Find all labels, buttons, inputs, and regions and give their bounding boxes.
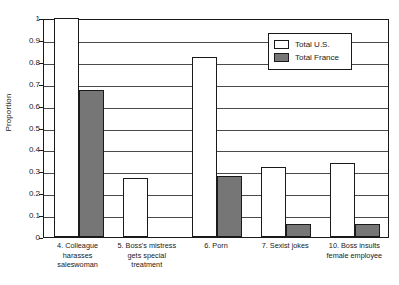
legend-label-total-us: Total U.S. xyxy=(295,40,330,49)
y-tick-mark xyxy=(39,194,43,195)
legend-item-total-france: Total France xyxy=(274,51,346,64)
y-tick-mark xyxy=(39,19,43,20)
legend-swatch-total-us xyxy=(274,40,289,49)
y-tick-mark xyxy=(39,63,43,64)
x-axis-label-line: treatment xyxy=(112,260,181,270)
bar-total-france xyxy=(286,224,311,237)
bar-total-us xyxy=(123,178,148,237)
y-tick-mark xyxy=(39,41,43,42)
y-tick-mark xyxy=(39,85,43,86)
bar-total-france xyxy=(355,224,380,237)
bar-group xyxy=(113,20,182,237)
bar-total-us xyxy=(330,163,355,237)
y-tick-label: 0.8 xyxy=(18,59,40,67)
y-tick-label: 0.5 xyxy=(18,125,40,133)
y-tick-mark xyxy=(39,172,43,173)
x-axis-label-line: 10. Boss insults xyxy=(320,241,389,251)
bar-group xyxy=(44,20,113,237)
x-axis-label: 7. Sexist jokes xyxy=(251,241,320,251)
x-axis-label-line: female employee xyxy=(320,251,389,261)
y-tick-label: 0.1 xyxy=(18,212,40,220)
chart-legend: Total U.S. Total France xyxy=(268,33,352,70)
bar-group xyxy=(182,20,251,237)
x-axis-label-line: harasses xyxy=(43,251,112,261)
bar-total-us xyxy=(261,167,286,237)
y-tick-mark xyxy=(39,150,43,151)
y-tick-label: 0.6 xyxy=(18,103,40,111)
y-tick-label: 0.4 xyxy=(18,146,40,154)
y-axis-title-text: Proportion xyxy=(5,93,14,131)
x-axis-labels: 4. Colleagueharassessaleswoman5. Boss's … xyxy=(43,241,389,283)
y-tick-mark xyxy=(39,129,43,130)
y-tick-label: 0.7 xyxy=(18,81,40,89)
y-tick-label: 0.9 xyxy=(18,37,40,45)
x-axis-label: 6. Porn xyxy=(181,241,250,251)
bar-total-us xyxy=(192,57,217,237)
x-axis-label-line: 4. Colleague xyxy=(43,241,112,251)
legend-swatch-total-france xyxy=(274,53,289,62)
y-tick-label: 0.2 xyxy=(18,190,40,198)
y-tick-mark xyxy=(39,238,43,239)
legend-label-total-france: Total France xyxy=(295,53,339,62)
y-tick-mark xyxy=(39,216,43,217)
x-axis-label-line: 7. Sexist jokes xyxy=(251,241,320,251)
x-axis-label-line: gets special xyxy=(112,251,181,261)
y-tick-mark xyxy=(39,107,43,108)
bar-chart-figure: Proportion 10.90.80.70.60.50.40.30.20.10… xyxy=(0,0,399,285)
x-axis-label-line: 5. Boss's mistress xyxy=(112,241,181,251)
y-tick-label: 0.3 xyxy=(18,168,40,176)
y-tick-label: 0 xyxy=(18,234,40,242)
y-tick-label: 1 xyxy=(18,15,40,23)
y-axis-ticks: 10.90.80.70.60.50.40.30.20.10 xyxy=(14,0,40,285)
bar-total-france xyxy=(79,90,104,237)
bar-total-us xyxy=(54,18,79,237)
x-axis-label: 4. Colleagueharassessaleswoman xyxy=(43,241,112,270)
x-axis-label-line: 6. Porn xyxy=(181,241,250,251)
bar-total-france xyxy=(217,176,242,237)
legend-item-total-us: Total U.S. xyxy=(274,38,346,51)
x-axis-label-line: saleswoman xyxy=(43,260,112,270)
x-axis-label: 5. Boss's mistressgets specialtreatment xyxy=(112,241,181,270)
x-axis-label: 10. Boss insultsfemale employee xyxy=(320,241,389,260)
